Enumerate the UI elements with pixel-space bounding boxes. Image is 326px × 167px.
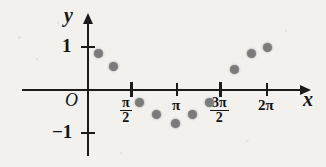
y-tick-negative-one [81, 132, 95, 134]
data-point [94, 49, 103, 58]
paper-speck [18, 36, 21, 39]
data-point [188, 110, 197, 119]
fraction-numerator: π [120, 96, 132, 110]
data-point [109, 62, 118, 71]
data-point [230, 65, 239, 74]
data-point [263, 43, 272, 52]
fraction-denominator: 2 [120, 110, 132, 125]
y-tick-label-negative-one: −1 [52, 121, 72, 143]
x-tick-pi-over-2 [130, 82, 133, 97]
x-tick-label-pi-over-2: π 2 [120, 96, 132, 126]
paper-speck [57, 22, 59, 24]
data-point [135, 98, 144, 107]
data-point [247, 49, 256, 58]
y-tick-positive-one [81, 46, 95, 48]
data-point [171, 119, 180, 128]
y-tick-label-one: 1 [62, 35, 72, 57]
data-point [205, 98, 214, 107]
paper-speck [120, 152, 122, 154]
origin-label: O [65, 90, 78, 111]
y-axis [87, 16, 89, 156]
fraction-denominator: 2 [210, 110, 229, 125]
paper-speck [246, 140, 249, 142]
y-axis-arrow-icon [83, 13, 93, 24]
x-tick-label-two-pi: 2π [258, 97, 274, 114]
coordinate-plot: y x O 1 −1 π 2 π 3π 2 2π [0, 0, 326, 167]
x-axis-label: x [303, 88, 313, 111]
paper-speck [285, 30, 287, 32]
x-tick-pi [176, 83, 178, 96]
x-tick-label-pi: π [172, 97, 180, 114]
paper-speck [36, 58, 38, 60]
y-axis-label: y [64, 4, 73, 27]
x-tick-two-pi [266, 83, 268, 96]
data-point [152, 110, 161, 119]
